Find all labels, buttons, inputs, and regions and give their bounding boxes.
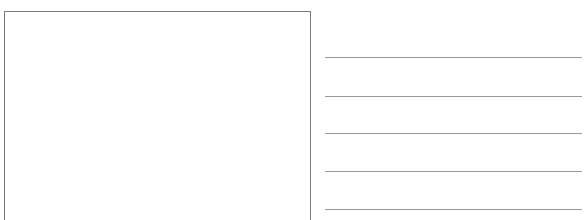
writing-lines [325, 0, 582, 220]
writing-line-2 [325, 96, 582, 97]
writing-line-5 [325, 209, 582, 210]
writing-line-1 [325, 57, 582, 58]
writing-line-3 [325, 133, 582, 134]
writing-line-4 [325, 171, 582, 172]
drawing-box [4, 11, 311, 220]
